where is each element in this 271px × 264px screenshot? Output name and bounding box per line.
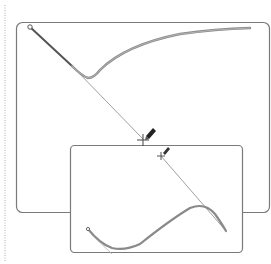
panel-2-frame xyxy=(71,146,243,253)
pen-tool-diagram xyxy=(0,0,271,264)
anchor-point-icon[interactable] xyxy=(28,25,32,29)
anchor-point-icon[interactable] xyxy=(86,227,89,230)
panel-2 xyxy=(71,146,243,255)
